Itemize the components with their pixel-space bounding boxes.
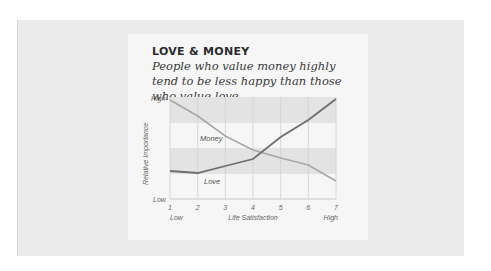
x-tick-6: 6: [306, 204, 310, 211]
x-tick-4: 4: [251, 204, 255, 211]
line-chart: Money Love High Low Relative Importance …: [0, 0, 491, 271]
money-label: Money: [200, 134, 224, 143]
x-tick-1: 1: [168, 204, 172, 211]
x-tick-3: 3: [223, 204, 227, 211]
x-low-label: Low: [170, 214, 184, 221]
x-tick-2: 2: [195, 204, 200, 211]
x-tick-7: 7: [334, 204, 339, 211]
y-low-label: Low: [153, 196, 167, 203]
x-high-label: High: [324, 214, 339, 222]
y-axis-title: Relative Importance: [142, 123, 150, 185]
love-label: Love: [204, 177, 220, 186]
y-high-label: High: [151, 95, 166, 103]
x-tick-5: 5: [279, 204, 283, 211]
x-axis-title: Life Satisfaction: [228, 214, 278, 221]
